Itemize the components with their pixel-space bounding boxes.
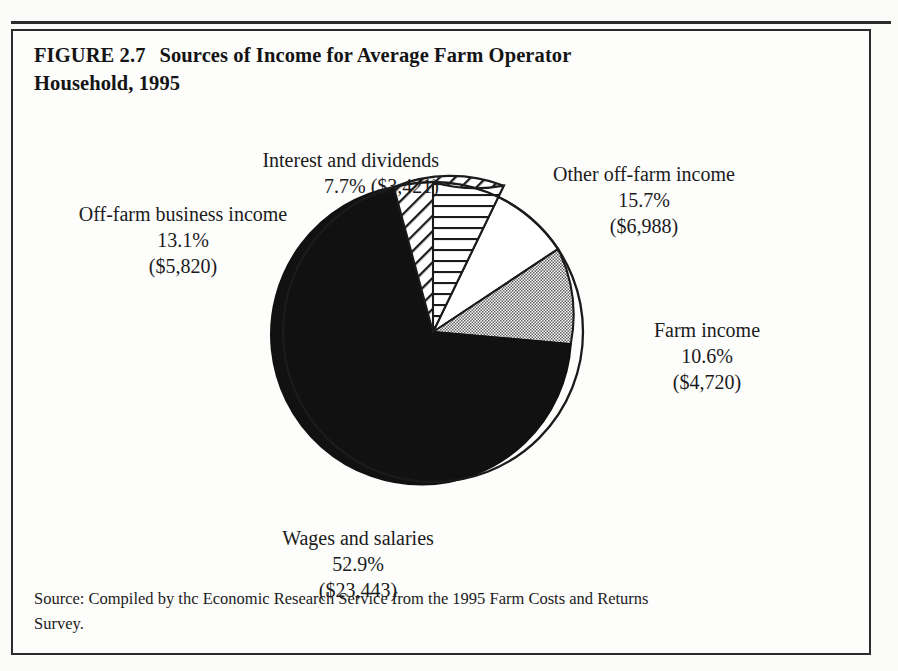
label-interest-value: 7.7% ($3,421): [189, 173, 439, 199]
label-interest-name: Interest and dividends: [189, 147, 439, 173]
label-interest-and-dividends: Interest and dividends 7.7% ($3,421): [189, 147, 439, 199]
source-note: Source: Compiled by thc Economic Researc…: [34, 586, 694, 636]
label-other-off-farm-amount: ($6,988): [509, 213, 779, 239]
top-rule: [11, 21, 891, 24]
label-off-farm-business-income: Off-farm business income 13.1% ($5,820): [33, 201, 333, 279]
label-wages-percent: 52.9%: [223, 551, 493, 577]
label-off-farm-business-percent: 13.1%: [33, 227, 333, 253]
source-line-1: Source: Compiled by thc Economic Researc…: [34, 589, 524, 608]
label-other-off-farm-percent: 15.7%: [509, 187, 779, 213]
pie-chart: Interest and dividends 7.7% ($3,421) Off…: [11, 29, 871, 655]
label-farm-income-name: Farm income: [597, 317, 817, 343]
label-farm-income-percent: 10.6%: [597, 343, 817, 369]
label-farm-income: Farm income 10.6% ($4,720): [597, 317, 817, 395]
label-off-farm-business-amount: ($5,820): [33, 253, 333, 279]
label-farm-income-amount: ($4,720): [597, 369, 817, 395]
label-off-farm-business-name: Off-farm business income: [33, 201, 333, 227]
label-wages-name: Wages and salaries: [223, 525, 493, 551]
label-other-off-farm-name: Other off-farm income: [509, 161, 779, 187]
label-other-off-farm-income: Other off-farm income 15.7% ($6,988): [509, 161, 779, 239]
scanned-page: FIGURE 2.7Sources of Income for Average …: [0, 0, 898, 671]
